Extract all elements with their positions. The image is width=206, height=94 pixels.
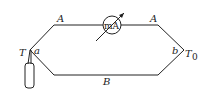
label-junction-b: b bbox=[172, 45, 178, 56]
thermocouple-diagram: A A B a b T T 0 mA bbox=[0, 0, 206, 94]
label-junction-a: a bbox=[34, 45, 40, 56]
probe-lead bbox=[28, 50, 30, 64]
label-temp-t0-sub: 0 bbox=[192, 52, 198, 62]
circuit-drawing: A A B a b T T 0 mA bbox=[0, 0, 206, 94]
probe-tube bbox=[25, 63, 34, 88]
label-a-left: A bbox=[56, 13, 64, 24]
label-temp-t: T bbox=[19, 47, 27, 58]
wire-a-left bbox=[30, 25, 103, 50]
wire-b bbox=[30, 50, 184, 75]
meter-label: mA bbox=[104, 21, 120, 31]
label-b: B bbox=[102, 76, 110, 87]
label-a-right: A bbox=[149, 13, 157, 24]
